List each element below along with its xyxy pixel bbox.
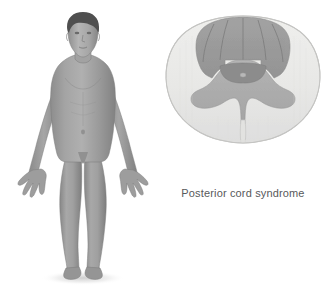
eye-right bbox=[87, 32, 92, 35]
posterior-cord-syndrome-illustration: Posterior cord syndrome bbox=[0, 0, 328, 292]
hand-right bbox=[120, 169, 148, 197]
leg-right bbox=[84, 156, 106, 279]
head bbox=[67, 12, 100, 57]
ear-left bbox=[67, 33, 69, 41]
spinal-cord-cross-section bbox=[158, 8, 328, 173]
eye-left bbox=[75, 32, 80, 35]
body-figure-svg bbox=[8, 6, 158, 288]
leg-left bbox=[60, 156, 82, 279]
spinal-cord-svg bbox=[158, 8, 328, 173]
central-canal bbox=[240, 73, 246, 77]
hand-left bbox=[18, 169, 46, 197]
body-figure bbox=[8, 6, 158, 288]
foot-left bbox=[64, 267, 81, 279]
floor-shadow bbox=[41, 271, 125, 285]
cord-caption: Posterior cord syndrome bbox=[158, 187, 328, 200]
ear-right bbox=[98, 33, 100, 41]
torso bbox=[51, 54, 116, 164]
foot-right bbox=[85, 267, 102, 279]
